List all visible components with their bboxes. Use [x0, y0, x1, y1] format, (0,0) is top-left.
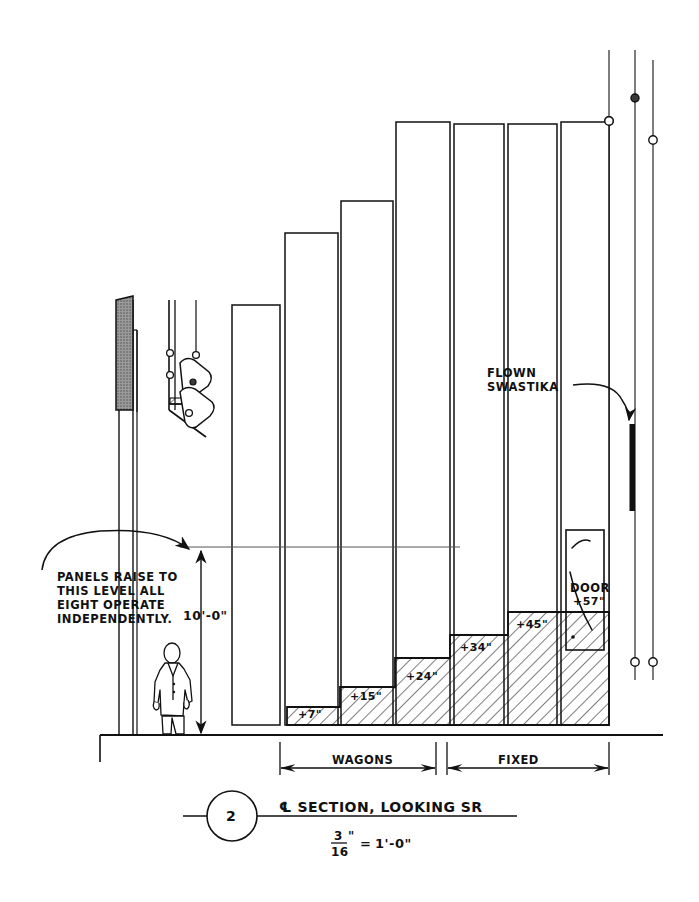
scenery-panel-1 [232, 305, 280, 725]
block-ring-top [193, 352, 200, 359]
step-label-3: +24" [406, 670, 438, 683]
panels-note-leader [42, 530, 189, 570]
flown-note-line-2: SWASTIKA [487, 380, 559, 394]
dim-label-wagons: WAGONS [332, 753, 393, 767]
figure-button-2 [173, 691, 175, 693]
swastika-bar [630, 424, 636, 511]
rigging-block-lower [180, 388, 214, 428]
section-drawing: DOOR +7" +15" +24" +34" +45" +57" 10'-0" [0, 0, 699, 902]
scale-value: 1'-0" [375, 836, 412, 851]
pulley-marker-2 [631, 94, 639, 102]
scale-note: 3 16 " = 1'-0" [331, 829, 412, 859]
figure-head [164, 643, 180, 663]
panel-top-pulley [605, 117, 613, 125]
scenery-panel-4 [396, 122, 450, 725]
door-label: DOOR [570, 581, 610, 595]
scale-inch-mark: " [348, 829, 355, 843]
panels-note-arrow [42, 530, 189, 570]
scenery-panel-3 [341, 201, 393, 725]
figure-legs [162, 716, 184, 734]
height-dimension-label: 10'-0" [183, 608, 228, 623]
rigging-lines-right [609, 50, 653, 680]
panels-note-text: PANELS RAISE TO THIS LEVEL ALL EIGHT OPE… [57, 570, 178, 626]
panels-note-line-1: PANELS RAISE TO [57, 570, 178, 584]
pulley-marker-3 [649, 136, 657, 144]
detail-number: 2 [226, 808, 236, 824]
batten-ring-1 [167, 350, 174, 357]
batten-ring-2 [167, 372, 174, 379]
step-label-4: +34" [460, 641, 492, 654]
scale-numerator: 3 [334, 829, 343, 843]
step-label-5: +45" [516, 618, 548, 631]
figure-button-1 [173, 683, 175, 685]
block-pin-middle [190, 379, 196, 385]
pulley-marker-5 [649, 658, 657, 666]
step-label-1: +7" [298, 708, 322, 721]
gray-panel-body [116, 296, 133, 410]
block-ring-bottom [186, 410, 193, 417]
flown-note-line-1: FLOWN [487, 366, 536, 380]
step-label-6: +57" [573, 595, 605, 608]
pulley-marker-4 [631, 658, 639, 666]
step-label-2: +15" [350, 690, 382, 703]
rigging-attachment-points [605, 94, 657, 666]
figure-hand-left [153, 702, 159, 710]
panels-note-line-2: THIS LEVEL ALL [57, 584, 165, 598]
scale-equals: = [360, 836, 371, 851]
dim-label-fixed: FIXED [498, 753, 539, 767]
scenery-panel-2 [285, 233, 338, 725]
panels-note-line-4: INDEPENDENTLY. [57, 612, 172, 626]
drawing-sheet: DOOR +7" +15" +24" +34" +45" +57" 10'-0" [0, 0, 699, 902]
flown-swastika-element [630, 424, 636, 511]
panels-note-line-3: EIGHT OPERATE [57, 598, 165, 612]
rigging-hardware-assembly [167, 300, 214, 437]
section-title: ℄ SECTION, LOOKING SR [279, 799, 483, 815]
scale-figure [153, 643, 192, 734]
dimension-string-row [280, 742, 609, 775]
gray-flown-panel [116, 296, 137, 412]
scale-denominator: 16 [331, 845, 349, 859]
